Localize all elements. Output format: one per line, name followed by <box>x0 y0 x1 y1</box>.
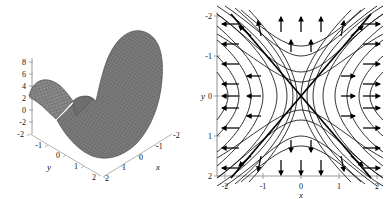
x-tick-1: 1 <box>122 163 126 172</box>
streamline-plot-panel: -2 -1 0 1 2 y -2 -1 0 1 2 x <box>195 0 390 199</box>
streamline-plot-svg: -2 -1 0 1 2 y -2 -1 0 1 2 x <box>195 0 390 199</box>
y-tick-3: 1 <box>74 162 78 171</box>
z-tick-4: 0 <box>22 106 26 115</box>
y-tick-0: -2 <box>17 130 24 139</box>
x-tick-0: 2 <box>105 174 109 183</box>
two-panel-math-figure: 8 6 4 2 0 -2 <box>0 0 390 199</box>
stream-x-tick-1: -1 <box>260 182 267 191</box>
stream-y-tick-1: -1 <box>205 52 212 61</box>
surface-x-axis-label: x <box>155 162 160 172</box>
x-tick-2: 0 <box>139 153 143 162</box>
y-tick-4: 2 <box>92 173 96 182</box>
y-tick-1: -1 <box>35 141 42 150</box>
surface-plot-panel: 8 6 4 2 0 -2 <box>0 0 195 199</box>
stream-x-tick-3: 1 <box>337 182 341 191</box>
stream-y-tick-2: 0 <box>208 92 212 101</box>
z-tick-2: 4 <box>22 82 26 91</box>
surface-plot-svg: 8 6 4 2 0 -2 <box>0 0 195 199</box>
stream-y-axis-label: y <box>200 91 205 101</box>
stream-x-tick-0: -2 <box>222 182 229 191</box>
surface-mesh <box>29 31 162 158</box>
surface-y-axis-label: y <box>46 162 51 172</box>
x-tick-3: -1 <box>156 142 163 151</box>
y-tick-2: 0 <box>56 151 60 160</box>
stream-y-tick-4: 2 <box>208 172 212 181</box>
z-tick-3: 2 <box>22 94 26 103</box>
z-tick-1: 6 <box>22 70 26 79</box>
z-tick-0: 8 <box>22 58 26 67</box>
x-tick-4: -2 <box>173 131 180 140</box>
z-tick-5: -2 <box>19 118 26 127</box>
stream-x-axis-label: x <box>298 190 303 199</box>
stream-y-tick-0: -2 <box>205 12 212 21</box>
stream-y-tick-3: 1 <box>208 132 212 141</box>
